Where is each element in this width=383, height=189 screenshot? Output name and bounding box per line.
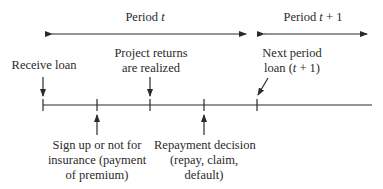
event-text: Receive loan — [4, 58, 84, 73]
period-var: t — [161, 10, 164, 24]
event-text: Sign up or not for — [47, 138, 147, 153]
period-suffix: + 1 — [323, 10, 343, 24]
event-text: Next period — [252, 46, 332, 61]
event-text: of premium) — [47, 168, 147, 183]
event-arrows-down — [43, 77, 268, 96]
event-receive-loan: Receive loan — [4, 58, 84, 73]
event-next-period-loan: Next period loan (t + 1) — [252, 46, 332, 76]
event-text: (repay, claim, — [154, 153, 254, 168]
event-text: insurance (payment — [47, 153, 147, 168]
event-project-returns: Project returns are realized — [105, 46, 197, 76]
period-t-label: Period t — [115, 10, 175, 25]
event-text-part: loan ( — [264, 61, 293, 75]
event-text: are realized — [105, 61, 197, 76]
event-text-part: + 1) — [296, 61, 320, 75]
period-label-text: Period — [125, 10, 158, 24]
event-sign-up-insurance: Sign up or not for insurance (payment of… — [47, 138, 147, 183]
event-repayment-decision: Repayment decision (repay, claim, defaul… — [154, 138, 254, 183]
period-t1-label: Period t + 1 — [278, 10, 348, 25]
event-text: Repayment decision — [154, 138, 254, 153]
event-text: default) — [154, 168, 254, 183]
period-label-text: Period — [284, 10, 317, 24]
event-arrows-up — [97, 115, 204, 135]
event-text: loan (t + 1) — [252, 61, 332, 76]
event-text: Project returns — [105, 46, 197, 61]
